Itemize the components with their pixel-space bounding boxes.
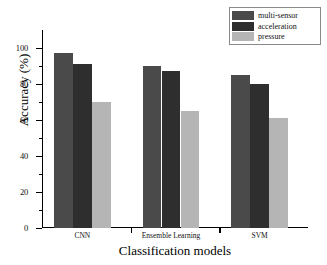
plot-area: 020406080100 [42, 30, 308, 228]
y-axis-title: Accuracy (%) [16, 20, 32, 160]
bar [231, 75, 250, 228]
x-category-label: Ensemble Learning [142, 231, 201, 240]
bar [54, 53, 73, 228]
legend-label: pressure [258, 32, 285, 41]
y-tick-label: 0 [24, 223, 28, 233]
legend-item[interactable]: multi-sensor [232, 11, 317, 21]
bar [143, 66, 162, 228]
legend-swatch [232, 22, 254, 31]
legend-swatch [232, 32, 254, 41]
legend-label: multi-sensor [258, 11, 298, 20]
x-tick [219, 228, 220, 233]
x-axis-title: Classification models [42, 243, 308, 259]
legend-swatch [232, 11, 254, 20]
bar [162, 71, 181, 228]
x-category-label: SVM [252, 231, 268, 240]
bar [92, 102, 111, 228]
bar-chart: 020406080100 CNNEnsemble LearningSVM Acc… [0, 0, 327, 265]
legend: multi-sensoraccelerationpressure [229, 7, 321, 45]
legend-item[interactable]: acceleration [232, 21, 317, 31]
bar [73, 64, 92, 228]
bar [269, 118, 288, 228]
bar [181, 111, 200, 228]
bar [250, 84, 269, 228]
y-tick-label: 20 [20, 187, 28, 197]
bars-layer [42, 30, 308, 228]
legend-label: acceleration [258, 22, 297, 31]
legend-item[interactable]: pressure [232, 32, 317, 42]
x-tick [131, 228, 132, 233]
x-category-label: CNN [74, 231, 90, 240]
y-tick-major: 0 [36, 228, 42, 229]
